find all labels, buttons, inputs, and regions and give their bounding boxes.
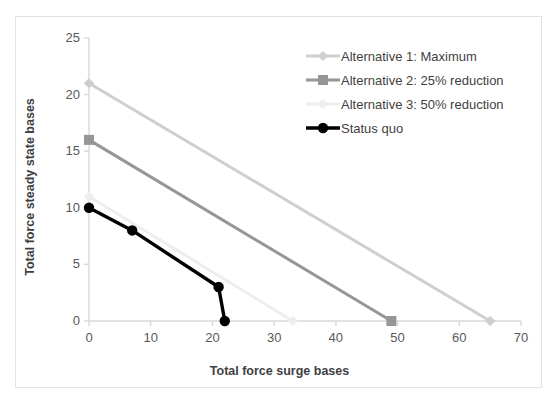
circle-marker xyxy=(318,123,328,133)
legend-item-4[interactable]: Status quo xyxy=(305,116,545,140)
legend-item-1[interactable]: Alternative 1: Maximum xyxy=(305,44,545,68)
diamond-icon xyxy=(305,93,341,115)
diamond-icon xyxy=(305,45,341,67)
x-tick-label: 40 xyxy=(316,330,356,345)
legend-label: Alternative 3: 50% reduction xyxy=(341,98,504,111)
y-tick-label: 20 xyxy=(46,87,80,102)
diamond-marker xyxy=(318,51,328,61)
legend-label: Alternative 2: 25% reduction xyxy=(341,74,504,87)
diamond-marker xyxy=(318,99,328,109)
y-tick-label: 5 xyxy=(46,256,80,271)
square-icon xyxy=(305,69,341,91)
y-axis-title: Total force steady state bases xyxy=(23,87,37,287)
x-tick-label: 30 xyxy=(254,330,294,345)
legend-item-3[interactable]: Alternative 3: 50% reduction xyxy=(305,92,545,116)
x-tick-label: 20 xyxy=(192,330,232,345)
legend-label: Status quo xyxy=(341,122,403,135)
y-tick-label: 10 xyxy=(46,200,80,215)
y-tick-label: 25 xyxy=(46,30,80,45)
y-tick-label: 0 xyxy=(46,313,80,328)
chart-figure: 0510152025010203040506070 Total force su… xyxy=(0,0,559,403)
square-marker xyxy=(318,75,328,85)
x-tick-label: 50 xyxy=(378,330,418,345)
x-tick-label: 10 xyxy=(131,330,171,345)
circle-icon xyxy=(305,117,341,139)
y-tick-label: 15 xyxy=(46,143,80,158)
legend-label: Alternative 1: Maximum xyxy=(341,50,477,63)
x-tick-label: 0 xyxy=(69,330,109,345)
chart-legend: Alternative 1: MaximumAlternative 2: 25%… xyxy=(305,44,545,140)
legend-item-2[interactable]: Alternative 2: 25% reduction xyxy=(305,68,545,92)
x-tick-label: 70 xyxy=(501,330,541,345)
x-axis-title: Total force surge bases xyxy=(0,364,559,378)
x-tick-label: 60 xyxy=(439,330,479,345)
